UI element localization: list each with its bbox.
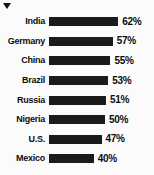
triangle-down-icon: [3, 3, 11, 9]
bar-chart-row: Germany57%: [0, 32, 154, 52]
bar-chart-row: Russia51%: [0, 90, 154, 110]
bar-row-label: Nigeria: [0, 115, 49, 124]
bar-row-value: 40%: [94, 154, 117, 164]
bar-chart-row: China55%: [0, 51, 154, 71]
bar-row-value: 62%: [118, 17, 141, 27]
bar-track: [49, 32, 113, 52]
bar-chart-row: Brazil53%: [0, 71, 154, 91]
bar-chart-row: U.S.47%: [0, 130, 154, 150]
bar-fill: [49, 76, 108, 85]
bar-row-label: India: [0, 17, 49, 26]
bar-track: [49, 110, 105, 130]
bar-fill: [49, 115, 105, 124]
bar-track: [49, 12, 118, 32]
bar-track: [49, 149, 94, 169]
bar-row-label: Germany: [0, 37, 49, 46]
bar-track: [49, 51, 110, 71]
bar-fill: [49, 154, 94, 163]
bar-track: [49, 130, 102, 150]
bar-chart-rows: India62%Germany57%China55%Brazil53%Russi…: [0, 12, 154, 169]
bar-row-value: 53%: [108, 76, 131, 86]
bar-row-label: U.S.: [0, 135, 49, 144]
bar-row-value: 50%: [105, 115, 128, 125]
bar-chart-row: Nigeria50%: [0, 110, 154, 130]
bar-fill: [49, 17, 118, 26]
bar-row-value: 55%: [110, 56, 133, 66]
bar-fill: [49, 56, 110, 65]
bar-row-label: Brazil: [0, 76, 49, 85]
bar-row-value: 51%: [106, 95, 129, 105]
bar-row-label: Russia: [0, 96, 49, 105]
bar-track: [49, 90, 106, 110]
bar-fill: [49, 135, 102, 144]
bar-fill: [49, 37, 113, 46]
bar-chart-row: Mexico40%: [0, 149, 154, 169]
bar-row-value: 47%: [102, 134, 125, 144]
bar-row-label: Mexico: [0, 154, 49, 163]
bar-chart: India62%Germany57%China55%Brazil53%Russi…: [0, 0, 154, 175]
bar-fill: [49, 96, 106, 105]
bar-chart-row: India62%: [0, 12, 154, 32]
bar-track: [49, 71, 108, 91]
bar-row-value: 57%: [113, 36, 136, 46]
bar-row-label: China: [0, 56, 49, 65]
